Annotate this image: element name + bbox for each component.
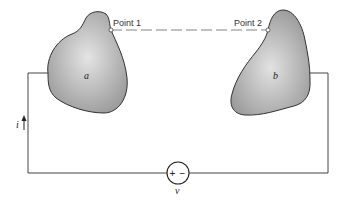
source-minus: −	[180, 168, 186, 179]
source-label: v	[175, 185, 180, 196]
circuit-diagram: Point 1 Point 2 a b i + − v	[0, 0, 342, 204]
point1-marker	[109, 28, 113, 32]
source-plus: +	[170, 168, 176, 179]
conductor-b-label: b	[273, 70, 278, 81]
current-arrow-icon	[22, 115, 27, 130]
point2-marker	[266, 28, 270, 32]
point2-label: Point 2	[234, 18, 262, 28]
conductor-a-label: a	[84, 70, 89, 81]
point1-label: Point 1	[113, 18, 141, 28]
current-label: i	[16, 119, 19, 130]
